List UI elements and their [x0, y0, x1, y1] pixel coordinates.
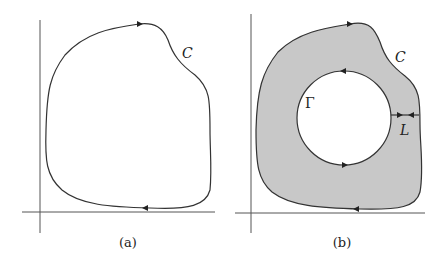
caption-a: (a)	[119, 235, 137, 250]
curve-label-c: C	[182, 45, 193, 61]
curve-label-c: C	[395, 49, 406, 65]
panel-b: C Γ L (b)	[235, 14, 425, 250]
curve-gamma	[297, 71, 391, 165]
caption-b: (b)	[333, 235, 351, 250]
cut-label-l: L	[399, 122, 409, 138]
curve-label-gamma: Γ	[305, 95, 315, 111]
diagram-canvas: C (a) C Γ L (b)	[0, 0, 443, 264]
panel-a: C (a)	[22, 20, 215, 250]
